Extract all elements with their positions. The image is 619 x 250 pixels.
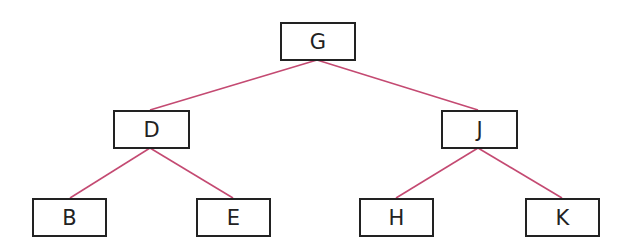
edge-j-h	[396, 148, 478, 198]
node-e: E	[196, 198, 271, 237]
node-k: K	[525, 198, 600, 237]
node-b: B	[32, 198, 107, 237]
node-h: H	[359, 198, 434, 237]
edge-j-k	[478, 148, 562, 198]
edge-d-b	[70, 148, 150, 198]
node-g: G	[280, 22, 356, 61]
node-d: D	[113, 110, 190, 149]
edge-g-d	[150, 60, 317, 110]
edge-d-e	[150, 148, 233, 198]
node-j: J	[441, 110, 518, 149]
edge-g-j	[317, 60, 478, 110]
